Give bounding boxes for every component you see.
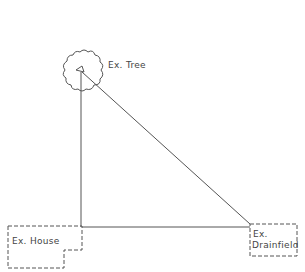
drainfield-label-line1: Ex.	[253, 229, 268, 240]
house-outline	[8, 226, 82, 268]
tree-label: Ex. Tree	[108, 60, 146, 71]
site-plan-canvas: Ex. Tree Ex. House Ex. Drainfield	[0, 0, 305, 272]
house-label: Ex. House	[12, 236, 60, 247]
drainfield-label-line2: Drainfield	[252, 240, 299, 251]
tree-to-drainfield-line	[82, 72, 250, 224]
